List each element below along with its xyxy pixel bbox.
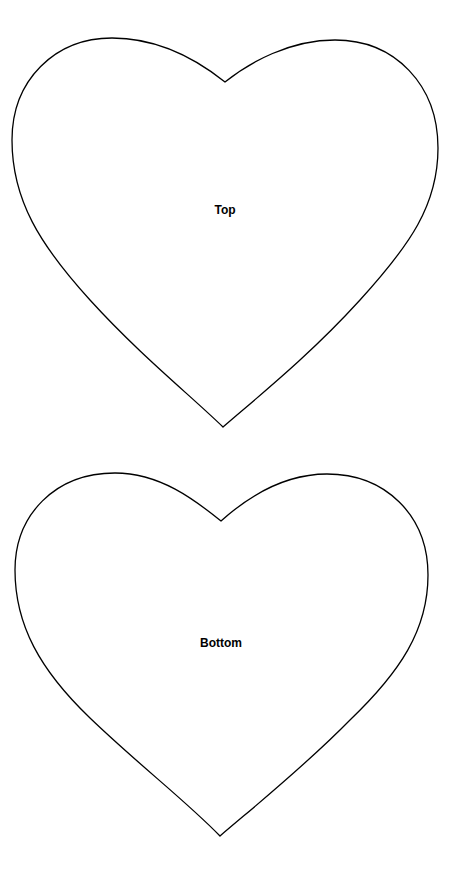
bottom-heart-label: Bottom xyxy=(200,636,242,650)
top-heart-outline xyxy=(12,38,438,427)
top-heart-label: Top xyxy=(214,203,235,217)
bottom-heart-outline xyxy=(15,473,428,836)
heart-template-canvas xyxy=(0,0,457,871)
